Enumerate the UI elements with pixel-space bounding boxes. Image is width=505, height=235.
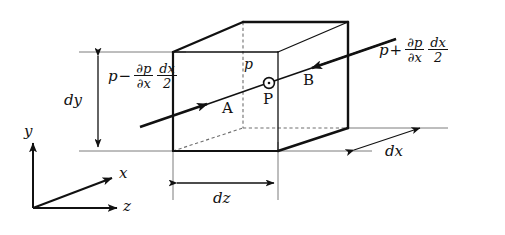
dimension-label-dz: dz [213,191,231,206]
axis-label-y: y [24,124,32,139]
dimension-label-dx: dx [385,144,403,159]
right-partial-denominator: ∂x [406,50,424,64]
coordinate-axes [33,143,117,208]
point-pressure-label: p [244,57,253,71]
left-pressure-lead: p [108,69,118,84]
axis-x-line [33,178,112,208]
dimension-label-dy: dy [64,93,82,108]
face-label-A: A [222,101,233,116]
left-partial-denominator: ∂x [135,76,153,90]
pressure-element-figure: p − ∂p ∂x dx 2 p + ∂p ∂x dx 2 A B p P dy… [0,0,505,235]
right-dx-fraction: dx 2 [428,36,448,65]
right-partial-numerator: ∂p [405,36,424,50]
left-dx-denominator: 2 [161,76,173,90]
edge-bottom-right-oblique [278,128,348,151]
face-label-B: B [303,73,314,88]
right-pressure-lead: p [379,43,389,58]
axis-label-x: x [119,166,127,181]
point-P-dot [268,82,271,85]
left-pressure-operator: − [119,69,132,84]
pressure-line-through-A [205,84,265,105]
point-P-marker [264,78,275,89]
right-partial-fraction: ∂p ∂x [405,36,424,65]
point-label-P: P [263,92,273,107]
edge-top-left-oblique [173,22,243,52]
edge-top-right-oblique [278,22,348,52]
right-dx-numerator: dx [428,36,448,50]
left-pressure-label: p − ∂p ∂x dx 2 [108,62,179,91]
right-dx-denominator: 2 [432,50,444,64]
cuboid-visible-edges [173,22,348,151]
left-dx-numerator: dx [157,62,177,76]
hidden-edge-bottom-oblique [173,128,243,151]
left-partial-fraction: ∂p ∂x [134,62,153,91]
right-pressure-operator: + [390,43,403,58]
left-dx-fraction: dx 2 [157,62,177,91]
right-pressure-label: p + ∂p ∂x dx 2 [379,36,450,65]
axis-label-z: z [123,199,131,214]
left-partial-numerator: ∂p [134,62,153,76]
